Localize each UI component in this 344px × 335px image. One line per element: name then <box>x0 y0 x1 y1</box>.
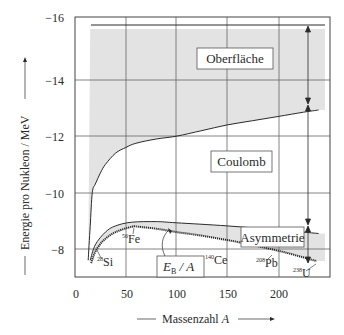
x-axis-ticks: 0 50 100 150 200 <box>73 287 288 301</box>
svg-text:0: 0 <box>73 287 79 301</box>
svg-text:Energie pro Nukleon / MeV: Energie pro Nukleon / MeV <box>18 115 32 250</box>
svg-text:56Fe: 56Fe <box>122 232 140 246</box>
svg-text:EB / A: EB / A <box>162 259 194 276</box>
svg-text:−14: −14 <box>45 74 64 88</box>
svg-text:238U: 238U <box>293 266 311 280</box>
svg-text:Oberfläche: Oberfläche <box>206 51 264 66</box>
eb-per-a-label: EB / A <box>157 228 204 277</box>
svg-text:150: 150 <box>219 287 237 301</box>
svg-text:100: 100 <box>168 287 186 301</box>
svg-text:−10: −10 <box>45 187 64 201</box>
asymmetrie-label: Asymmetrie <box>240 227 304 247</box>
svg-text:Asymmetrie: Asymmetrie <box>240 230 304 245</box>
svg-text:208Pb: 208Pb <box>256 256 278 270</box>
svg-text:−16: −16 <box>45 11 64 25</box>
svg-text:−12: −12 <box>45 130 64 144</box>
svg-text:−8: −8 <box>51 243 64 257</box>
y-axis-ticks: −16 −14 −12 −10 −8 <box>45 11 64 257</box>
svg-text:140Ce: 140Ce <box>205 253 227 267</box>
svg-text:50: 50 <box>121 287 133 301</box>
y-axis-title: Energie pro Nukleon / MeV <box>18 57 32 275</box>
x-axis-title: Massenzahl A <box>137 312 275 326</box>
svg-text:Coulomb: Coulomb <box>217 154 265 169</box>
svg-text:200: 200 <box>270 287 288 301</box>
oberflaeche-label: Oberfläche <box>197 48 273 69</box>
coulomb-label: Coulomb <box>211 151 272 172</box>
svg-text:28Si: 28Si <box>97 255 114 269</box>
svg-text:Massenzahl A: Massenzahl A <box>162 312 230 326</box>
binding-energy-chart: Oberfläche Coulomb Asymmetrie EB / A 28S… <box>0 0 344 335</box>
